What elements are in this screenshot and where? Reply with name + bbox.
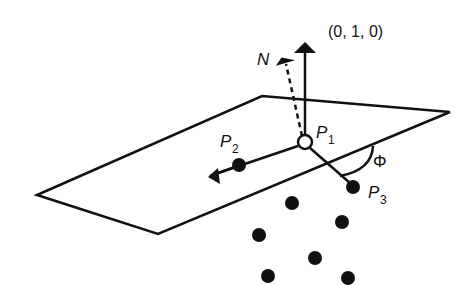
normal-label: N [257,50,270,69]
point-p3 [346,180,360,194]
p2-arrowhead [208,168,220,184]
p2-subscript: 2 [232,142,239,156]
up-vector-arrowhead [294,42,316,53]
p1-subscript: 1 [328,133,335,147]
normal-vector-arrowhead [275,55,296,65]
cloud-point [308,251,322,265]
point-p2 [232,158,246,172]
up-vector-label: (0, 1, 0) [328,23,383,40]
p1-p3-line [310,148,350,183]
point-p1 [298,135,312,149]
p3-subscript: 3 [380,193,387,207]
cloud-point [285,196,299,210]
cloud-point [335,215,349,229]
p1-label: P [316,123,328,142]
point-cloud [252,196,355,285]
cloud-point [261,269,275,283]
p2-label: P [220,132,232,151]
cloud-point [252,228,266,242]
cloud-point [341,271,355,285]
p3-label: P [368,183,380,202]
angle-label: Φ [373,152,387,171]
diagram: (0, 1, 0) N P 1 P 2 P 3 Φ [0,0,472,285]
